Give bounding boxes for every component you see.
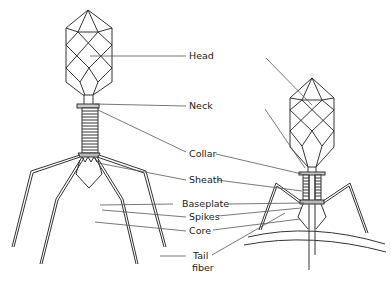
label-head: Head (189, 51, 214, 61)
label-core: Core (189, 226, 211, 236)
left-phage (12, 10, 166, 264)
label-baseplate: Baseplate (182, 199, 229, 209)
label-fiber: fiber (192, 263, 214, 273)
label-tail: Tail (193, 251, 208, 261)
label-collar: Collar (189, 149, 216, 159)
right-phage (244, 78, 386, 270)
label-sheath: Sheath (189, 175, 222, 185)
label-neck: Neck (189, 101, 213, 111)
label-spikes: Spikes (189, 212, 220, 222)
